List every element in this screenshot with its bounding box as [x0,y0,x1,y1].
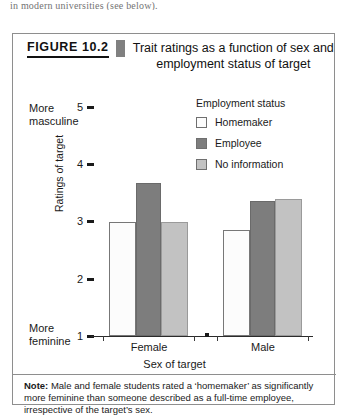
y-axis-title: Ratings of target [53,135,65,212]
note-prefix: Note: [24,380,48,391]
page-text-fragment: in modern universities (see below). [10,0,240,10]
legend-swatch-employee [196,138,207,149]
legend-title: Employment status [196,97,328,109]
y-tick-label-5: 5 [69,101,83,113]
y-tick-label-2: 2 [69,273,83,285]
y-tick-mark-2 [87,278,94,281]
y-tick-label-1: 1 [69,330,83,342]
bar-male-homemaker [223,230,250,336]
y-tick-label-3: 3 [69,215,83,227]
chart-legend: Employment status Homemaker Employee No … [196,97,328,179]
x-tick-mark-left [103,336,104,341]
figure-note: Note: Male and female students rated a ‘… [24,380,326,416]
legend-item-homemaker: Homemaker [196,116,328,128]
x-axis-line [91,336,313,337]
note-body: Male and female students rated a ‘homema… [24,380,313,415]
bar-female-employee [136,183,161,336]
bar-male-noinfo [275,199,302,336]
x-axis-center-marker [205,333,209,337]
legend-label-noinfo: No information [215,158,283,170]
bar-female-noinfo [161,222,188,336]
x-tick-mark-right [308,336,309,341]
bar-male-employee [250,201,275,336]
legend-label-homemaker: Homemaker [215,116,272,128]
note-divider [13,374,336,375]
legend-swatch-noinfo [196,159,207,170]
x-category-label-male: Male [228,341,298,353]
x-tick-mark-mid-right [217,336,218,341]
x-axis-title: Sex of target [13,358,336,370]
bar-female-homemaker [109,222,136,336]
figure-container: FIGURE 10.2 Trait ratings as a function … [12,33,335,405]
bar-chart: More masculine More feminine Ratings of … [13,34,336,406]
y-tick-label-4: 4 [69,158,83,170]
x-tick-mark-mid-left [194,336,195,341]
y-tick-mark-3 [87,220,94,223]
y-tick-mark-5 [87,106,94,109]
legend-item-employee: Employee [196,137,328,149]
legend-swatch-homemaker [196,117,207,128]
legend-label-employee: Employee [215,137,262,149]
x-category-label-female: Female [114,341,184,353]
y-tick-mark-4 [87,163,94,166]
legend-item-noinfo: No information [196,158,328,170]
